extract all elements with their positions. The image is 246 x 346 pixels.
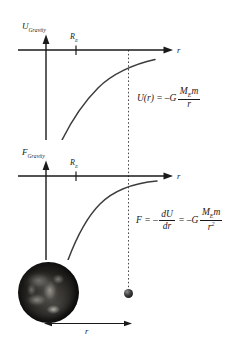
figure-canvas: UGravity RE r U(r) = –G MEm r [0, 0, 246, 346]
distance-arrow [0, 0, 246, 346]
distance-arrow-label: r [85, 327, 88, 336]
